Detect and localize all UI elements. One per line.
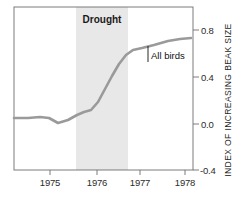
x-tick-label-1976: 1976	[87, 177, 107, 188]
x-tick-label-1975: 1975	[40, 177, 60, 188]
chart-canvas	[0, 0, 234, 200]
y-tick-label-0-4: 0.4	[201, 72, 214, 83]
y-tick-label-0-8: 0.8	[201, 25, 214, 36]
y-tick-label-neg-0-4: -0.4	[200, 165, 216, 176]
y-axis-title: INDEX OF INCREASING BEAK SIZE	[224, 23, 233, 176]
beak-size-chart: Drought All birds 1975 1976 1977 1978 0.…	[0, 0, 234, 200]
y-tick-label-0-0: 0.0	[201, 119, 214, 130]
drought-shaded-band	[76, 7, 128, 170]
x-tick-label-1978: 1978	[175, 177, 195, 188]
x-axis-ticks	[50, 170, 185, 175]
all-birds-annotation-label: All birds	[151, 50, 185, 61]
y-axis-ticks	[193, 30, 199, 170]
x-tick-label-1977: 1977	[130, 177, 150, 188]
drought-band-label: Drought	[83, 14, 122, 25]
